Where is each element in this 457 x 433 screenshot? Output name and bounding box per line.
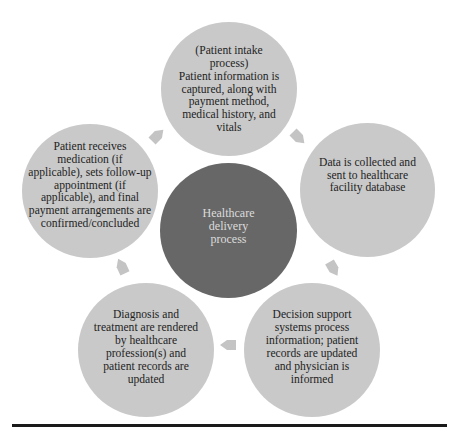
- step-diagnosis-treatment: Diagnosis and treatment are rendered by …: [78, 283, 214, 417]
- step-discharge-payment-text: Patient receives medication (if applicab…: [28, 141, 151, 231]
- step-decision-support-text: Decision support systems process informa…: [266, 309, 358, 386]
- center-label: Healthcare delivery process: [203, 207, 255, 246]
- arrow-left-icon: [218, 334, 240, 356]
- healthcare-delivery-cycle-diagram: (Patient intake process) Patient informa…: [0, 0, 457, 433]
- bottom-rule-divider: [12, 424, 447, 427]
- arrow-down-icon: [318, 253, 348, 283]
- arrow-up-icon: [107, 252, 136, 281]
- step-patient-intake: (Patient intake process) Patient informa…: [161, 22, 297, 156]
- center-healthcare-delivery-process: Healthcare delivery process: [160, 163, 297, 298]
- step-patient-intake-text: (Patient intake process) Patient informa…: [179, 45, 279, 135]
- step-data-collection-text: Data is collected and sent to healthcare…: [319, 157, 416, 196]
- step-decision-support: Decision support systems process informa…: [244, 283, 380, 417]
- arrow-down-right-icon: [282, 121, 313, 152]
- step-data-collection: Data is collected and sent to healthcare…: [300, 123, 435, 257]
- step-diagnosis-treatment-text: Diagnosis and treatment are rendered by …: [94, 309, 198, 386]
- step-discharge-payment: Patient receives medication (if applicab…: [22, 124, 158, 258]
